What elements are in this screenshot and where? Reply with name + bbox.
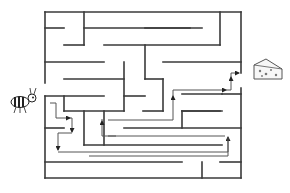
solution-path bbox=[50, 73, 239, 156]
maze-outer-walls bbox=[45, 12, 241, 178]
maze-board bbox=[0, 0, 290, 193]
cheese-icon bbox=[254, 59, 282, 79]
ant-icon bbox=[11, 88, 36, 113]
maze-inner-walls bbox=[45, 12, 241, 178]
